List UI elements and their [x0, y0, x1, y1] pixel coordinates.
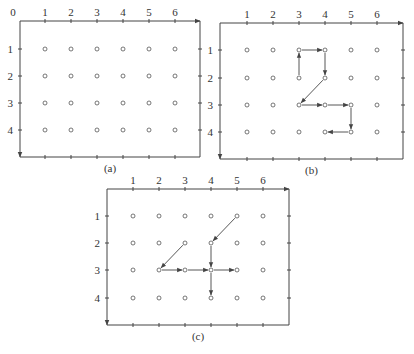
- grid-node: [131, 268, 135, 272]
- panel-caption: (c): [192, 330, 205, 343]
- grid-node: [209, 268, 213, 272]
- grid-node: [43, 74, 47, 78]
- grid-node: [183, 214, 187, 218]
- grid-node: [235, 296, 239, 300]
- column-label: 6: [260, 174, 266, 186]
- grid-node: [375, 48, 379, 52]
- row-label: 4: [8, 124, 14, 136]
- grid-node: [43, 128, 47, 132]
- column-label: 5: [146, 6, 152, 18]
- grid-node: [121, 101, 125, 105]
- grid-node: [43, 101, 47, 105]
- grid-node: [173, 128, 177, 132]
- grid-node: [147, 128, 151, 132]
- grid-node: [69, 101, 73, 105]
- grid-node: [121, 74, 125, 78]
- grid-node: [157, 241, 161, 245]
- grid-node: [183, 241, 187, 245]
- grid-node: [43, 47, 47, 51]
- grid-node: [209, 214, 213, 218]
- grid-node: [297, 76, 301, 80]
- grid-node: [121, 128, 125, 132]
- direction-arrow: [213, 218, 235, 241]
- grid-node: [157, 214, 161, 218]
- grid-node: [235, 214, 239, 218]
- grid-node: [297, 130, 301, 134]
- row-label: 2: [208, 72, 214, 84]
- grid-node: [297, 103, 301, 107]
- grid-node: [271, 76, 275, 80]
- grid-node: [297, 48, 301, 52]
- column-label: 4: [120, 6, 126, 18]
- grid-node: [235, 268, 239, 272]
- panel-caption: (b): [305, 164, 318, 177]
- grid-node: [147, 47, 151, 51]
- grid-node: [261, 241, 265, 245]
- grid-node: [323, 103, 327, 107]
- grid-node: [375, 76, 379, 80]
- panel-caption: (a): [104, 162, 117, 175]
- grid-node: [323, 48, 327, 52]
- row-label: 1: [8, 43, 14, 55]
- grid-node: [69, 74, 73, 78]
- grid-node: [95, 74, 99, 78]
- grid-node: [349, 48, 353, 52]
- grid-node: [349, 130, 353, 134]
- grid-node: [95, 47, 99, 51]
- column-label: 3: [94, 6, 100, 18]
- grid-node: [245, 103, 249, 107]
- grid-node: [131, 241, 135, 245]
- column-label: 6: [172, 6, 178, 18]
- row-label: 3: [8, 97, 14, 109]
- column-label: 1: [42, 6, 48, 18]
- grid-node: [235, 241, 239, 245]
- row-label: 3: [208, 99, 214, 111]
- column-label: 3: [182, 174, 188, 186]
- row-label: 1: [208, 44, 214, 56]
- column-label: 5: [234, 174, 240, 186]
- grid-node: [245, 76, 249, 80]
- grid-node: [375, 103, 379, 107]
- grid-node: [375, 130, 379, 134]
- grid-node: [271, 48, 275, 52]
- row-label: 1: [95, 210, 101, 222]
- row-label: 2: [8, 70, 14, 82]
- grid-node: [323, 130, 327, 134]
- grid-node: [173, 101, 177, 105]
- grid-node: [173, 74, 177, 78]
- grid-node: [183, 296, 187, 300]
- direction-arrow: [161, 245, 183, 268]
- grid-diagram-figure: 12345612340(a)1234561234(b)1234561234(c): [0, 0, 414, 354]
- column-label: 2: [68, 6, 74, 18]
- grid-node: [261, 214, 265, 218]
- grid-node: [183, 268, 187, 272]
- grid-node: [131, 214, 135, 218]
- grid-node: [245, 48, 249, 52]
- grid-node: [209, 241, 213, 245]
- grid-node: [271, 130, 275, 134]
- panel-a: 12345612340(a): [8, 6, 203, 175]
- grid-node: [121, 47, 125, 51]
- column-label: 2: [270, 8, 276, 20]
- panel-c: 1234561234(c): [95, 174, 292, 343]
- grid-node: [147, 74, 151, 78]
- row-label: 4: [95, 292, 101, 304]
- row-label: 2: [95, 237, 101, 249]
- grid-node: [209, 296, 213, 300]
- column-label: 5: [348, 8, 354, 20]
- column-label: 4: [322, 8, 328, 20]
- column-label: 2: [156, 174, 162, 186]
- grid-node: [147, 101, 151, 105]
- origin-label: 0: [10, 6, 16, 18]
- grid-node: [69, 47, 73, 51]
- grid-node: [173, 47, 177, 51]
- grid-node: [323, 76, 327, 80]
- grid-node: [157, 296, 161, 300]
- grid-node: [95, 128, 99, 132]
- grid-node: [261, 296, 265, 300]
- column-label: 6: [374, 8, 380, 20]
- column-label: 1: [130, 174, 136, 186]
- grid-node: [349, 76, 353, 80]
- grid-node: [245, 130, 249, 134]
- panel-b: 1234561234(b): [208, 8, 406, 177]
